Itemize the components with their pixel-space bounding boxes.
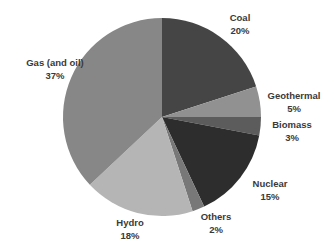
energy-sources-pie-chart: Coal 20% Geothermal 5% Biomass 3% Nuclea… bbox=[0, 0, 325, 248]
slice-label-text: Geothermal bbox=[268, 89, 321, 102]
slice-percent-text: 20% bbox=[230, 24, 251, 37]
slice-label-hydro: Hydro 18% bbox=[116, 216, 143, 242]
slice-percent-text: 2% bbox=[201, 223, 232, 236]
slice-percent-text: 37% bbox=[26, 69, 84, 82]
slice-percent-text: 15% bbox=[253, 190, 288, 203]
slice-label-text: Nuclear bbox=[253, 177, 288, 190]
slice-label-others: Others 2% bbox=[201, 210, 232, 236]
slice-label-text: Coal bbox=[230, 11, 251, 24]
slice-label-text: Hydro bbox=[116, 216, 143, 229]
slice-label-text: Gas (and oil) bbox=[26, 56, 84, 69]
slice-label-text: Biomass bbox=[272, 118, 312, 131]
slice-label-text: Others bbox=[201, 210, 232, 223]
slice-label-nuclear: Nuclear 15% bbox=[253, 177, 288, 203]
slice-label-biomass: Biomass 3% bbox=[272, 118, 312, 144]
slice-label-gas: Gas (and oil) 37% bbox=[26, 56, 84, 82]
slice-percent-text: 18% bbox=[116, 229, 143, 242]
slice-label-coal: Coal 20% bbox=[230, 11, 251, 37]
slice-label-geothermal: Geothermal 5% bbox=[268, 89, 321, 115]
slice-percent-text: 5% bbox=[268, 102, 321, 115]
slice-percent-text: 3% bbox=[272, 131, 312, 144]
